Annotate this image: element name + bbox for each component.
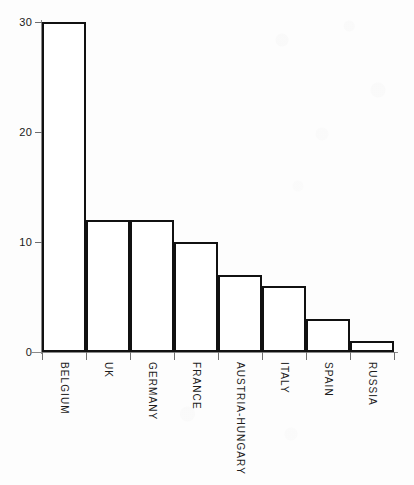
bar <box>218 275 262 352</box>
bar <box>174 242 218 352</box>
bar <box>350 341 394 352</box>
x-axis-category-label: RUSSIA <box>367 362 377 406</box>
x-axis-category-label: BELGIUM <box>59 362 69 415</box>
x-axis-category-label: GERMANY <box>147 362 157 420</box>
x-axis-category-label: UK <box>103 362 113 378</box>
bar <box>86 220 130 352</box>
bar <box>42 22 86 352</box>
bar-chart: 0102030 BELGIUMUKGERMANYFRANCEAUSTRIA-HU… <box>0 0 414 485</box>
x-axis-category-label: SPAIN <box>323 362 333 397</box>
bar <box>306 319 350 352</box>
x-axis-category-label: ITALY <box>279 362 289 394</box>
bar <box>130 220 174 352</box>
x-axis-category-label: AUSTRIA-HUNGARY <box>235 362 245 475</box>
bar <box>262 286 306 352</box>
x-axis-category-label: FRANCE <box>191 362 201 410</box>
